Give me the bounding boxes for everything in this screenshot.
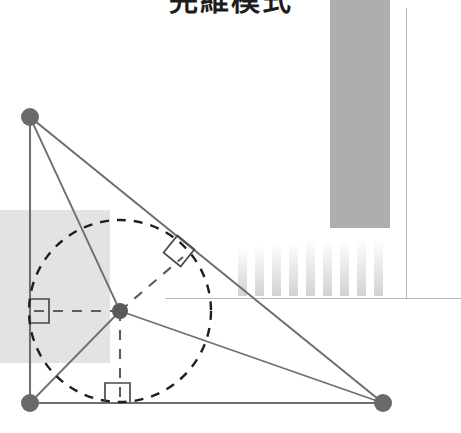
incenter-dot: [112, 303, 128, 319]
figure-canvas: 完維模式: [0, 0, 461, 433]
right-angle-at-hypotenuse: [164, 236, 195, 267]
vertex-A-dot: [21, 108, 39, 126]
bisector-from-C: [120, 311, 383, 403]
hypotenuse-AC: [30, 117, 383, 403]
vertex-B-dot: [21, 394, 39, 412]
geometry-diagram: [0, 0, 461, 433]
radius-to-hypotenuse: [120, 257, 183, 311]
right-angle-at-base: [105, 383, 130, 402]
vertex-C-dot: [374, 394, 392, 412]
bisector-from-A: [30, 117, 120, 311]
